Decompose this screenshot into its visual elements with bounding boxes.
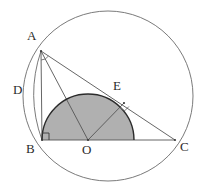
vertex-dot-c — [174, 139, 176, 141]
vertex-dot-o — [87, 139, 89, 141]
vertex-dot-b — [41, 139, 43, 141]
vertex-dot-e — [123, 102, 125, 104]
point-label-d: D — [13, 83, 22, 96]
point-label-a: A — [27, 29, 36, 42]
segment-ab — [41, 51, 42, 140]
shaded-semicircle-region — [42, 94, 134, 140]
point-label-c: C — [180, 140, 189, 153]
point-label-o: O — [82, 143, 91, 156]
geometry-figure: A B C D E O — [0, 0, 201, 184]
vertex-dot-a — [40, 50, 42, 52]
point-label-e: E — [113, 79, 121, 92]
point-label-b: B — [26, 142, 35, 155]
